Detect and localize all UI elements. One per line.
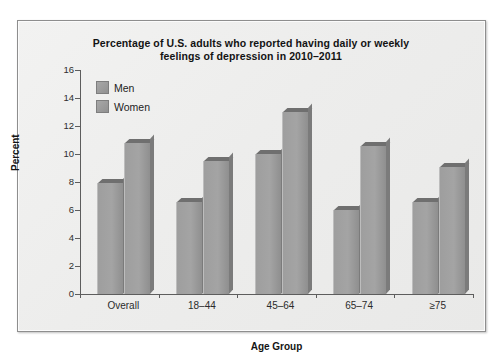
y-tick-label-14: 14	[48, 92, 74, 103]
x-category-label-1: 18–44	[162, 300, 242, 311]
y-tick-label-4: 4	[48, 232, 74, 243]
y-tick-2	[75, 266, 80, 267]
x-category-label-0: Overall	[83, 300, 163, 311]
bar-women-75	[439, 167, 465, 294]
x-tick-end	[473, 294, 474, 298]
y-tick-6	[75, 210, 80, 211]
x-tick-0	[80, 294, 81, 298]
x-tick-4	[394, 294, 395, 298]
y-tick-label-0: 0	[48, 288, 74, 299]
x-tick-3	[316, 294, 317, 298]
x-axis-label: Age Group	[80, 341, 473, 352]
legend-item-men: Men	[96, 81, 150, 94]
bar-side-face	[386, 137, 390, 294]
y-tick-label-8: 8	[48, 176, 74, 187]
bar-side-face	[150, 134, 154, 294]
y-tick-label-16: 16	[48, 64, 74, 75]
chart-legend: MenWomen	[96, 81, 150, 119]
x-category-label-2: 45–64	[241, 300, 321, 311]
x-tick-1	[159, 294, 160, 298]
bar-women-4564	[282, 112, 308, 294]
chart-title: Percentage of U.S. adults who reported h…	[36, 37, 466, 62]
y-tick-16	[75, 70, 80, 71]
y-axis-label: Percent	[10, 134, 21, 171]
bar-men-75	[412, 202, 438, 294]
y-tick-10	[75, 154, 80, 155]
bar-side-face	[465, 158, 469, 294]
chart-panel: Percentage of U.S. adults who reported h…	[17, 20, 486, 332]
x-axis-line	[80, 294, 474, 295]
bar-men-6574	[333, 210, 359, 294]
bar-women-1844	[203, 161, 229, 294]
bar-men-1844	[176, 202, 202, 294]
bar-women-Overall	[124, 143, 150, 294]
bar-men-Overall	[97, 183, 123, 294]
y-tick-4	[75, 238, 80, 239]
y-tick-12	[75, 126, 80, 127]
y-tick-label-6: 6	[48, 204, 74, 215]
y-tick-14	[75, 98, 80, 99]
bar-women-6574	[360, 146, 386, 294]
x-tick-2	[237, 294, 238, 298]
bar-side-face	[229, 153, 233, 294]
bar-men-4564	[255, 154, 281, 294]
chart-title-line-1: Percentage of U.S. adults who reported h…	[36, 37, 466, 50]
y-tick-8	[75, 182, 80, 183]
y-axis-line	[80, 70, 81, 295]
legend-label-women: Women	[114, 101, 150, 113]
legend-swatch-icon-men	[96, 81, 109, 94]
x-category-label-3: 65–74	[319, 300, 399, 311]
y-tick-label-2: 2	[48, 260, 74, 271]
legend-swatch-icon-women	[96, 100, 109, 113]
legend-item-women: Women	[96, 100, 150, 113]
bar-side-face	[308, 104, 312, 294]
y-tick-label-12: 12	[48, 120, 74, 131]
legend-label-men: Men	[114, 82, 134, 94]
x-category-label-4: ≥75	[398, 300, 478, 311]
chart-title-line-2: feelings of depression in 2010–2011	[36, 50, 466, 63]
y-tick-label-10: 10	[48, 148, 74, 159]
y-axis-tick-labels: 0246810121416	[38, 70, 74, 300]
